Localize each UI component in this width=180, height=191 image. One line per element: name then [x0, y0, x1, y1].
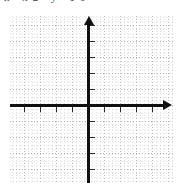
y-axis-arrow-icon [84, 16, 94, 25]
x-axis-tick [104, 107, 105, 112]
gridline-v-major [152, 16, 153, 183]
gridline-v [160, 16, 161, 183]
gridline-v-major [24, 16, 25, 183]
x-axis-tick [72, 107, 73, 112]
gridline-v-major [120, 16, 121, 183]
gridline-h [10, 69, 173, 70]
x-axis-tick [136, 107, 137, 112]
gridline-v [144, 16, 145, 183]
gridline-v [36, 16, 37, 183]
gridline-v [84, 16, 85, 183]
x-axis-tick [24, 107, 25, 112]
gridline-v [100, 16, 101, 183]
x-axis-tick [120, 107, 121, 112]
gridline-v-major [72, 16, 73, 183]
gridline-h [10, 129, 173, 130]
gridline-h [10, 101, 173, 102]
gridline-v [156, 16, 157, 183]
gridline-h [10, 29, 173, 30]
x-axis-tick [152, 107, 153, 112]
gridline-h [10, 81, 173, 82]
gridline-h [10, 165, 173, 166]
cropped-header-text: n x2 y 10 [0, 0, 180, 9]
gridline-v [80, 16, 81, 183]
coordinate-grid-figure: n x2 y 10 [0, 0, 180, 191]
gridline-h [10, 145, 173, 146]
x-axis-tick [40, 107, 41, 112]
gridline-h [10, 117, 173, 118]
gridline-h [10, 149, 173, 150]
gridline-h [10, 173, 173, 174]
y-axis-tick [90, 73, 95, 74]
y-axis-tick [90, 89, 95, 90]
gridline-v [112, 16, 113, 183]
gridline-v [48, 16, 49, 183]
gridline-h [10, 85, 173, 86]
gridline-v [172, 16, 173, 183]
y-axis-tick [90, 121, 95, 122]
gridline-v [108, 16, 109, 183]
plot-area [10, 16, 173, 183]
x-axis-arrow-icon [163, 100, 172, 110]
gridline-v [124, 16, 125, 183]
gridline-h [10, 157, 173, 158]
gridline-v [148, 16, 149, 183]
gridline-h [10, 49, 173, 50]
gridline-h [10, 181, 173, 182]
gridline-h [10, 33, 173, 34]
gridline-h [10, 93, 173, 94]
gridline-v [96, 16, 97, 183]
y-axis-tick [90, 41, 95, 42]
y-axis-tick [90, 137, 95, 138]
gridline-v [32, 16, 33, 183]
gridline-v [60, 16, 61, 183]
y-axis-tick [90, 25, 95, 26]
y-axis-tick [90, 57, 95, 58]
gridline-h [10, 53, 173, 54]
gridline-h [10, 125, 173, 126]
gridline-h [10, 133, 173, 134]
gridline-v [76, 16, 77, 183]
gridline-v [12, 16, 13, 183]
gridline-v [64, 16, 65, 183]
gridline-h [10, 65, 173, 66]
gridline-h [10, 113, 173, 114]
gridline-v [68, 16, 69, 183]
gridline-h [10, 141, 173, 142]
gridline-v-major [104, 16, 105, 183]
cropped-header-text-label: n x2 y 10 [4, 0, 90, 3]
gridline-v [44, 16, 45, 183]
y-axis [87, 24, 90, 183]
gridline-h [10, 177, 173, 178]
gridline-v [140, 16, 141, 183]
gridline-v [20, 16, 21, 183]
gridline-v [16, 16, 17, 183]
gridline-h [10, 97, 173, 98]
gridline-v [128, 16, 129, 183]
gridline-h [10, 45, 173, 46]
gridline-h [10, 109, 173, 110]
gridline-v [52, 16, 53, 183]
y-axis-tick [90, 153, 95, 154]
gridline-h [10, 77, 173, 78]
gridline-h [10, 37, 173, 38]
gridline-v-major [136, 16, 137, 183]
gridline-v-major [40, 16, 41, 183]
gridline-v [132, 16, 133, 183]
gridline-v-major [56, 16, 57, 183]
gridline-v [116, 16, 117, 183]
gridline-h [10, 161, 173, 162]
y-axis-tick [90, 169, 95, 170]
gridline-h [10, 61, 173, 62]
x-axis-tick [56, 107, 57, 112]
gridline-v [28, 16, 29, 183]
